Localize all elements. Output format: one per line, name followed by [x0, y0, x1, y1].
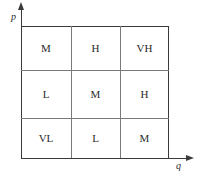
matrix-cell: M	[71, 70, 120, 118]
q-axis-label: q	[176, 161, 181, 171]
q-axis	[21, 158, 189, 159]
matrix-cell: H	[120, 70, 169, 118]
p-axis-label: p	[11, 12, 16, 22]
p-axis-arrow-icon	[18, 2, 24, 10]
matrix-cell: VL	[21, 118, 71, 158]
matrix-cell: VH	[120, 26, 169, 70]
matrix-cell: L	[21, 70, 71, 118]
matrix-cell: M	[21, 26, 71, 70]
q-axis-arrow-icon	[186, 155, 194, 161]
matrix-cell: H	[71, 26, 120, 70]
matrix-cell: L	[71, 118, 120, 158]
matrix-cell: M	[120, 118, 169, 158]
